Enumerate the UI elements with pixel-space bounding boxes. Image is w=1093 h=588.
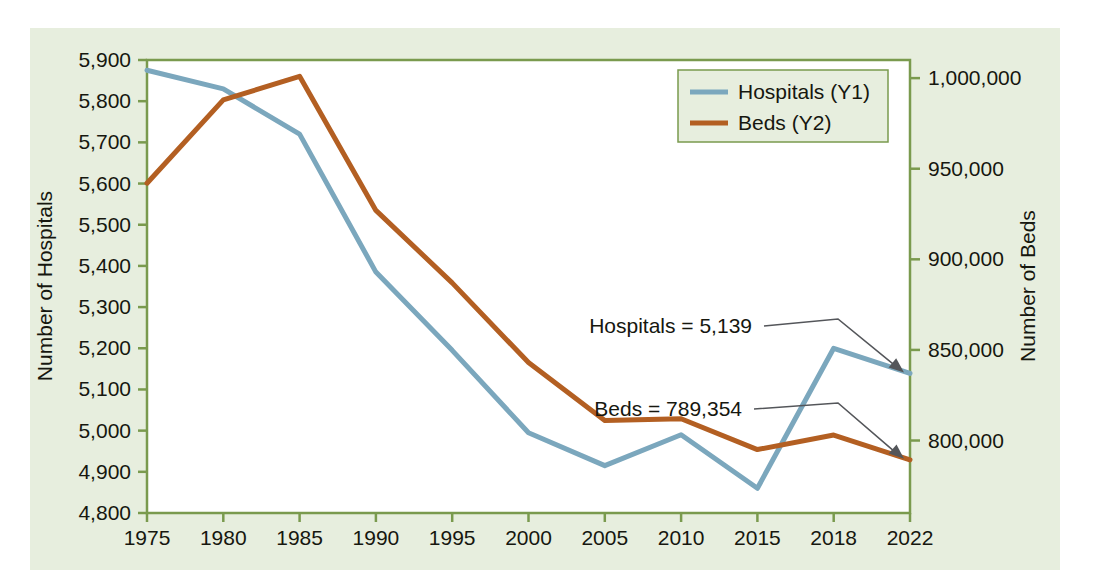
- x-axis: 1975198019851990199520002005201020152018…: [124, 513, 934, 549]
- annotation-label: Beds = 789,354: [594, 397, 742, 420]
- y1-tick-label: 5,100: [78, 377, 131, 400]
- x-tick-label: 2018: [810, 526, 857, 549]
- y1-tick-label: 5,400: [78, 254, 131, 277]
- chart-legend: Hospitals (Y1)Beds (Y2): [678, 70, 888, 142]
- x-tick-label: 1980: [200, 526, 247, 549]
- y1-tick-label: 5,500: [78, 213, 131, 236]
- x-tick-label: 2005: [581, 526, 628, 549]
- y2-tick-label: 800,000: [928, 429, 1004, 452]
- x-tick-label: 2022: [887, 526, 934, 549]
- figure-root: 5,9005,8005,7005,6005,5005,4005,3005,200…: [0, 0, 1093, 588]
- legend-item-label: Beds (Y2): [738, 111, 831, 134]
- y1-tick-label: 5,800: [78, 89, 131, 112]
- x-tick-label: 1975: [124, 526, 171, 549]
- x-tick-label: 2015: [734, 526, 781, 549]
- y2-tick-label: 850,000: [928, 338, 1004, 361]
- y1-axis: 5,9005,8005,7005,6005,5005,4005,3005,200…: [78, 48, 147, 524]
- y1-tick-label: 5,300: [78, 295, 131, 318]
- y1-tick-label: 5,900: [78, 48, 131, 71]
- y1-tick-label: 4,800: [78, 501, 131, 524]
- y1-tick-label: 5,700: [78, 130, 131, 153]
- y2-axis: 1,000,000950,000900,000850,000800,000: [910, 66, 1021, 451]
- x-tick-label: 1990: [353, 526, 400, 549]
- x-tick-label: 1985: [276, 526, 323, 549]
- y1-tick-label: 5,200: [78, 336, 131, 359]
- y2-tick-label: 900,000: [928, 247, 1004, 270]
- y2-axis-title: Number of Beds: [1016, 210, 1039, 362]
- legend-item-label: Hospitals (Y1): [738, 80, 870, 103]
- annotation-label: Hospitals = 5,139: [589, 314, 752, 337]
- line-chart: 5,9005,8005,7005,6005,5005,4005,3005,200…: [0, 0, 1093, 588]
- y1-tick-label: 5,000: [78, 419, 131, 442]
- y2-tick-label: 1,000,000: [928, 66, 1021, 89]
- y1-tick-label: 5,600: [78, 172, 131, 195]
- y1-tick-label: 4,900: [78, 460, 131, 483]
- y2-tick-label: 950,000: [928, 157, 1004, 180]
- x-tick-label: 2010: [658, 526, 705, 549]
- y1-axis-title: Number of Hospitals: [33, 191, 56, 381]
- x-tick-label: 2000: [505, 526, 552, 549]
- x-tick-label: 1995: [429, 526, 476, 549]
